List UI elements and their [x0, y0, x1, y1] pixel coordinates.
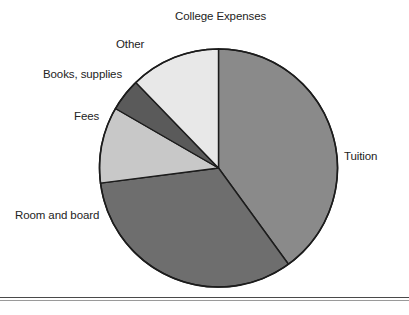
- bottom-rule-line-dark: [0, 297, 409, 298]
- chart-page: College Expenses Other Books, supplies F…: [0, 0, 409, 315]
- slice-label-room-and-board: Room and board: [15, 209, 99, 221]
- bottom-rule: [0, 297, 409, 300]
- pie-slice-group: [99, 49, 337, 287]
- slice-label-tuition: Tuition: [344, 150, 377, 162]
- slice-label-books-supplies: Books, supplies: [43, 68, 122, 80]
- slice-label-other: Other: [116, 38, 144, 50]
- bottom-rule-line-light: [0, 300, 409, 301]
- slice-label-fees: Fees: [74, 110, 99, 122]
